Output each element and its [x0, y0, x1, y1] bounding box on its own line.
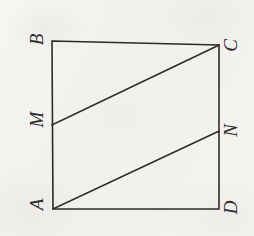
segment-a-to-n	[53, 131, 219, 209]
vertex-label-m: M	[27, 112, 46, 128]
vertex-label-a: A	[27, 199, 46, 211]
vertex-label-c: C	[221, 39, 240, 52]
vertex-label-b: B	[27, 34, 46, 46]
vertex-label-d: D	[221, 201, 240, 215]
figure-canvas: B C N D A M	[0, 0, 254, 236]
segment-m-to-c	[52, 45, 219, 125]
square-outline-abcd	[52, 41, 219, 209]
vertex-label-n: N	[221, 124, 240, 137]
